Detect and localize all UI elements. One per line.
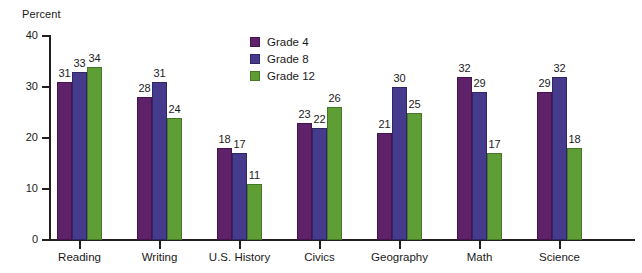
bar-value-label: 33 <box>73 58 85 69</box>
bar <box>87 67 102 240</box>
legend-label: Grade 8 <box>267 53 309 65</box>
bar <box>247 184 262 240</box>
y-axis-title: Percent <box>22 8 61 20</box>
bar-value-label: 31 <box>58 68 70 79</box>
x-axis-tick <box>559 241 561 249</box>
bar <box>392 87 407 240</box>
bar-value-label: 11 <box>249 170 260 181</box>
y-axis-tick <box>42 188 51 190</box>
bar <box>457 77 472 240</box>
bar-chart: Percent 010203040 ReadingWritingU.S. His… <box>0 0 642 273</box>
bar <box>472 92 487 240</box>
bar <box>537 92 552 240</box>
x-axis-tick <box>239 241 241 249</box>
bar-value-label: 25 <box>408 99 420 110</box>
legend-item: Grade 4 <box>250 33 315 50</box>
bar <box>312 128 327 240</box>
x-axis-tick <box>399 241 401 249</box>
bar <box>152 82 167 240</box>
x-axis-category-label: Geography <box>371 251 428 263</box>
bar <box>552 77 567 240</box>
legend: Grade 4Grade 8Grade 12 <box>250 33 315 84</box>
x-axis-tick <box>479 241 481 249</box>
bar <box>407 113 422 241</box>
x-axis-category-label: U.S. History <box>209 251 270 263</box>
bar <box>377 133 392 240</box>
legend-label: Grade 12 <box>267 70 315 82</box>
bar <box>327 107 342 240</box>
bar-value-label: 28 <box>138 83 150 94</box>
x-axis-category-label: Math <box>467 251 493 263</box>
x-axis-tick <box>319 241 321 249</box>
y-axis-tick-label: 40 <box>6 30 38 41</box>
bar <box>217 148 232 240</box>
bar <box>57 82 72 240</box>
bar-value-label: 24 <box>168 104 180 115</box>
y-axis-tick-label: 20 <box>6 132 38 143</box>
bar-value-label: 21 <box>378 119 390 130</box>
x-axis-tick <box>159 241 161 249</box>
bar-value-label: 22 <box>313 114 325 125</box>
legend-label: Grade 4 <box>267 36 309 48</box>
y-axis-tick <box>42 137 51 139</box>
legend-swatch-icon <box>250 71 260 81</box>
bar-value-label: 32 <box>553 63 565 74</box>
bar <box>297 123 312 240</box>
legend-item: Grade 8 <box>250 50 315 67</box>
x-axis-category-label: Civics <box>304 251 335 263</box>
bar-value-label: 26 <box>328 93 340 104</box>
y-axis-tick-label: 30 <box>6 81 38 92</box>
bar-value-label: 17 <box>233 139 245 150</box>
bar-value-label: 30 <box>393 73 405 84</box>
legend-item: Grade 12 <box>250 67 315 84</box>
bar <box>72 72 87 240</box>
y-axis-tick <box>42 239 51 241</box>
bar-value-label: 29 <box>538 78 550 89</box>
y-axis-tick <box>42 35 51 37</box>
legend-swatch-icon <box>250 54 260 64</box>
bar-value-label: 31 <box>153 68 165 79</box>
y-axis-tick-label: 10 <box>6 183 38 194</box>
bar-value-label: 18 <box>218 134 230 145</box>
bar <box>232 153 247 240</box>
y-axis-tick <box>42 86 51 88</box>
bar <box>567 148 582 240</box>
bar <box>487 153 502 240</box>
x-axis-category-label: Science <box>539 251 580 263</box>
x-axis-category-label: Writing <box>142 251 178 263</box>
legend-swatch-icon <box>250 37 260 47</box>
bar <box>167 118 182 240</box>
x-axis-category-label: Reading <box>58 251 101 263</box>
bar-value-label: 29 <box>473 78 485 89</box>
bar-value-label: 32 <box>458 63 470 74</box>
bar <box>137 97 152 240</box>
bar-value-label: 17 <box>488 139 500 150</box>
y-axis-tick-label: 0 <box>6 234 38 245</box>
bar-value-label: 23 <box>298 109 310 120</box>
x-axis-tick <box>79 241 81 249</box>
bar-value-label: 18 <box>568 134 580 145</box>
bar-value-label: 34 <box>88 53 100 64</box>
